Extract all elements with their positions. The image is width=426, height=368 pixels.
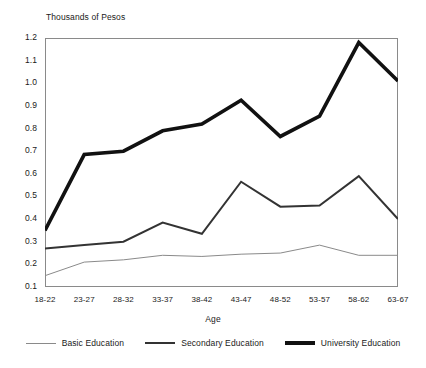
plot-frame xyxy=(45,38,398,287)
line-chart-figure: Thousands of Pesos 1.21.11.00.90.80.70.6… xyxy=(0,0,426,368)
y-tick-label: 0.9 xyxy=(7,100,37,110)
legend-item-secondary-education[interactable]: Secondary Education xyxy=(145,338,264,348)
y-tick-label: 0.8 xyxy=(7,123,37,133)
y-tick-label: 0.6 xyxy=(7,168,37,178)
legend-label: Secondary Education xyxy=(181,338,264,348)
legend-label: University Education xyxy=(321,338,400,348)
series-lines xyxy=(45,43,398,276)
y-tick-label: 0.7 xyxy=(7,145,37,155)
chart-legend: Basic EducationSecondary EducationUniver… xyxy=(0,338,426,348)
y-tick-label: 0.5 xyxy=(7,190,37,200)
legend-swatch-icon xyxy=(26,343,56,344)
x-tick-label: 63-67 xyxy=(375,295,421,304)
series-line-university-education xyxy=(45,43,398,231)
x-axis-label: Age xyxy=(0,314,426,324)
y-tick-label: 0.3 xyxy=(7,236,37,246)
y-tick-label: 1.0 xyxy=(7,77,37,87)
series-line-secondary-education xyxy=(45,176,398,248)
plot-area xyxy=(45,38,398,287)
y-tick-label: 0.2 xyxy=(7,258,37,268)
y-tick-label: 0.1 xyxy=(7,281,37,291)
series-line-basic-education xyxy=(45,245,398,276)
legend-label: Basic Education xyxy=(62,338,124,348)
chart-title: Thousands of Pesos xyxy=(46,12,125,22)
y-tick-label: 0.4 xyxy=(7,213,37,223)
legend-swatch-icon xyxy=(285,341,315,345)
axis-ticks xyxy=(45,38,398,287)
y-tick-label: 1.1 xyxy=(7,55,37,65)
legend-swatch-icon xyxy=(145,342,175,344)
legend-item-basic-education[interactable]: Basic Education xyxy=(26,338,124,348)
y-tick-label: 1.2 xyxy=(7,32,37,42)
legend-item-university-education[interactable]: University Education xyxy=(285,338,400,348)
plot-svg xyxy=(45,38,398,287)
